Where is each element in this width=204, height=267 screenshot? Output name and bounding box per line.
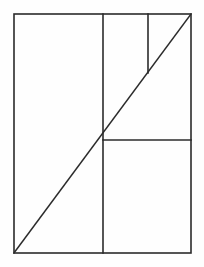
figure-canvas (0, 0, 204, 267)
line-figure-svg (0, 0, 204, 267)
